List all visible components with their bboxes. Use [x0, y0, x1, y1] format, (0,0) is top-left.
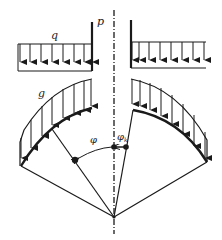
node-apex — [112, 215, 115, 218]
node-phi-k — [123, 144, 129, 150]
self-weight-load-g-left — [20, 79, 92, 166]
label-phi: φ — [90, 134, 97, 145]
shell-load-diagram: q p g — [0, 0, 222, 240]
label-g: g — [38, 87, 45, 100]
angle-phi-arc — [79, 147, 112, 158]
label-q: q — [51, 29, 58, 42]
self-weight-load-g-right — [131, 79, 207, 162]
node-crown — [111, 144, 117, 150]
node-phi — [72, 157, 78, 163]
uniform-load-q-right — [131, 20, 206, 68]
label-p: p — [97, 15, 104, 28]
label-phi-k: φk — [117, 131, 128, 143]
